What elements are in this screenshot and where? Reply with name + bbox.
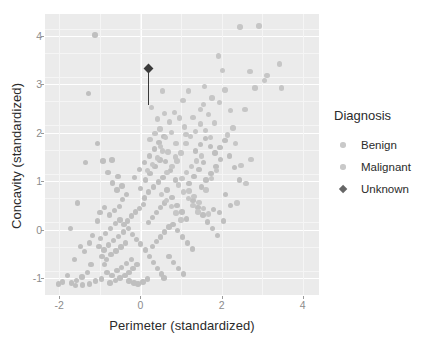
data-point [169,204,174,209]
data-point [202,84,207,89]
data-point [243,181,248,186]
data-point [72,257,77,262]
data-point [206,211,211,216]
data-point [237,177,242,182]
data-point [214,168,219,173]
data-point [190,203,195,208]
data-point [130,232,135,237]
legend-label: Malignant [361,161,411,173]
data-point [173,141,178,146]
y-tick-label: 0 [36,224,42,236]
data-point [90,233,95,238]
data-point [179,209,184,214]
data-point [126,278,131,283]
data-point [147,137,152,142]
data-point [160,148,165,153]
data-point [146,220,151,225]
legend: Diagnosis BenignMalignantUnknown [334,108,430,200]
data-point [188,134,193,139]
data-point [100,158,105,163]
y-tick-label: 2 [36,127,42,139]
data-point [205,219,210,224]
data-point [146,189,151,194]
data-point [247,69,252,74]
legend-items: BenignMalignantUnknown [334,134,430,200]
gridline-minor-horizontal [45,53,319,54]
data-point [123,240,128,245]
data-point [105,170,110,175]
data-point [230,125,235,130]
gridline-horizontal [45,181,319,182]
data-point [184,216,189,221]
data-point [225,132,230,137]
data-point [194,158,199,163]
data-point [138,186,143,191]
data-point [200,212,205,217]
data-point [73,283,78,288]
data-point [176,182,181,187]
data-point [196,200,201,205]
legend-label: Benign [361,139,397,151]
data-point [102,205,107,210]
data-point [104,257,109,262]
data-point [110,180,115,185]
data-point [227,153,232,158]
data-point [97,210,102,215]
top-edge-artifact [0,0,431,4]
data-point [150,244,155,249]
data-point [242,107,247,112]
data-point [212,120,217,125]
data-point [119,183,124,188]
data-point [208,144,213,149]
data-point [115,174,120,179]
data-point [180,98,185,103]
data-point [181,271,186,276]
data-point [190,246,195,251]
data-point [80,282,85,287]
gridline-minor-vertical [140,14,141,295]
unknown-connector-line [148,69,150,105]
data-point [186,88,191,93]
data-point [142,160,147,165]
data-point [163,159,168,164]
gridline-horizontal [45,84,319,85]
diamond-marker-icon [339,185,348,194]
data-point [155,116,160,121]
data-point [85,270,90,275]
data-point [228,203,233,208]
legend-item-benign: Benign [334,134,430,156]
data-point [151,260,156,265]
legend-key [334,186,352,192]
legend-title: Diagnosis [334,108,430,123]
data-point [120,197,125,202]
x-axis-title: Perimeter (standardized) [45,318,319,333]
data-point [95,218,100,223]
data-point [112,208,117,213]
data-point [107,212,112,217]
data-point [119,265,124,270]
data-point [185,240,190,245]
data-point [169,130,174,135]
data-point [198,142,203,147]
y-tick-label: -1 [33,272,42,284]
data-point [182,124,187,129]
gridline-minor-vertical [303,14,304,295]
data-point [171,260,176,265]
data-point [169,164,174,169]
data-point [248,157,253,162]
data-point [116,234,121,239]
data-point [154,210,159,215]
gridline-horizontal [45,133,319,134]
data-point [191,174,196,179]
data-point [151,184,156,189]
data-point [173,210,178,215]
data-point [198,107,203,112]
y-tick-label: 1 [36,175,42,187]
data-point [189,164,194,169]
x-tick-label: -2 [55,299,64,311]
data-point [175,228,180,233]
data-point [162,111,167,116]
data-point [167,119,172,124]
gridline-minor-horizontal [45,198,319,199]
circle-marker-icon [340,164,345,169]
